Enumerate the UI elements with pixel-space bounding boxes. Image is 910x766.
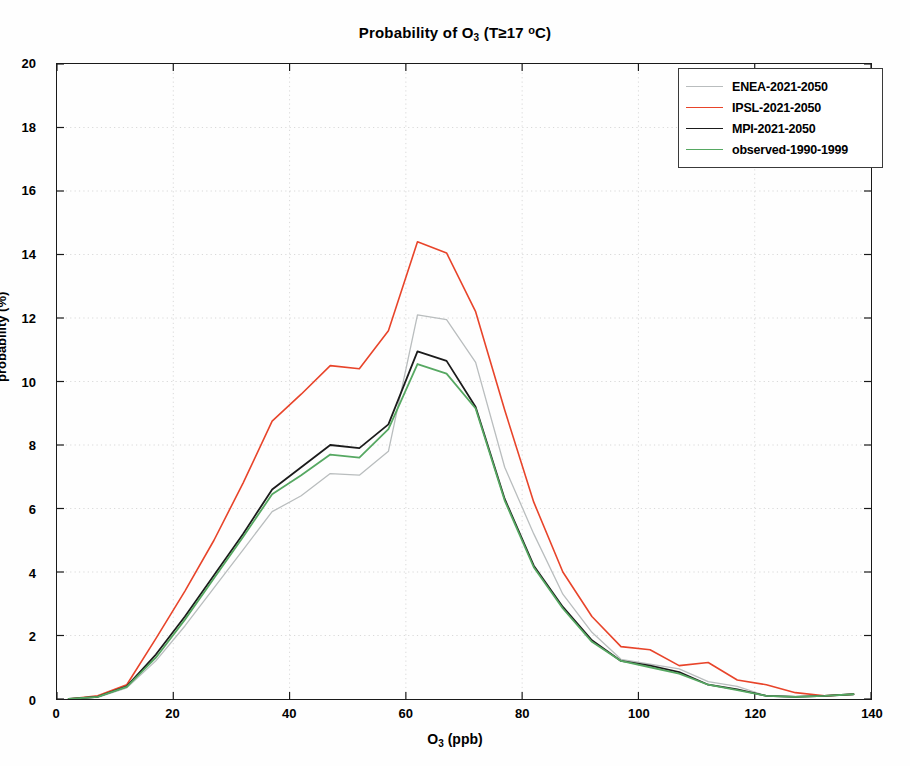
series-line bbox=[69, 364, 854, 699]
y-tick-label: 4 bbox=[0, 565, 36, 580]
y-tick-label: 12 bbox=[0, 310, 36, 325]
y-axis-label: probability (%) bbox=[0, 292, 9, 382]
x-axis-label-prefix: O bbox=[427, 731, 438, 747]
x-tick-label: 100 bbox=[609, 706, 669, 721]
y-tick-label: 16 bbox=[0, 183, 36, 198]
legend-item[interactable]: ENEA-2021-2050 bbox=[686, 76, 874, 97]
x-tick-label: 40 bbox=[259, 706, 319, 721]
x-tick-label: 120 bbox=[725, 706, 785, 721]
x-axis-label-suffix: (ppb) bbox=[444, 731, 483, 747]
legend-item[interactable]: MPI-2021-2050 bbox=[686, 118, 874, 139]
chart-title-suffix: (T≥17 bbox=[479, 24, 528, 41]
legend-item[interactable]: observed-1990-1999 bbox=[686, 139, 874, 160]
x-tick-label: 0 bbox=[26, 706, 86, 721]
legend-color-swatch bbox=[686, 86, 723, 87]
y-tick-label: 6 bbox=[0, 501, 36, 516]
y-tick-label: 18 bbox=[0, 119, 36, 134]
legend-label: ENEA-2021-2050 bbox=[732, 80, 828, 94]
y-tick-label: 2 bbox=[0, 629, 36, 644]
x-tick-label: 60 bbox=[376, 706, 436, 721]
legend-label: MPI-2021-2050 bbox=[732, 122, 816, 136]
x-tick-label: 20 bbox=[143, 706, 203, 721]
y-tick-label: 10 bbox=[0, 374, 36, 389]
legend-color-swatch bbox=[686, 128, 723, 129]
legend-color-swatch bbox=[686, 149, 723, 150]
y-tick-label: 20 bbox=[0, 56, 36, 71]
legend-item[interactable]: IPSL-2021-2050 bbox=[686, 97, 874, 118]
legend-label: observed-1990-1999 bbox=[732, 143, 848, 157]
legend: ENEA-2021-2050IPSL-2021-2050MPI-2021-205… bbox=[678, 68, 883, 168]
chart-title: Probability of O3 (T≥17 oC) bbox=[0, 24, 910, 43]
y-tick-label: 14 bbox=[0, 247, 36, 262]
legend-label: IPSL-2021-2050 bbox=[732, 101, 821, 115]
series-line bbox=[69, 315, 854, 699]
chart-figure: Probability of O3 (T≥17 oC) probability … bbox=[0, 0, 910, 766]
x-tick-label: 140 bbox=[842, 706, 902, 721]
series-line bbox=[69, 351, 854, 699]
x-tick-label: 80 bbox=[492, 706, 552, 721]
x-axis-label: O3 (ppb) bbox=[0, 731, 910, 749]
chart-title-unit: C) bbox=[535, 24, 551, 41]
chart-title-prefix: Probability of O bbox=[359, 24, 474, 41]
legend-color-swatch bbox=[686, 107, 723, 108]
y-tick-label: 8 bbox=[0, 438, 36, 453]
series-line bbox=[69, 242, 854, 699]
